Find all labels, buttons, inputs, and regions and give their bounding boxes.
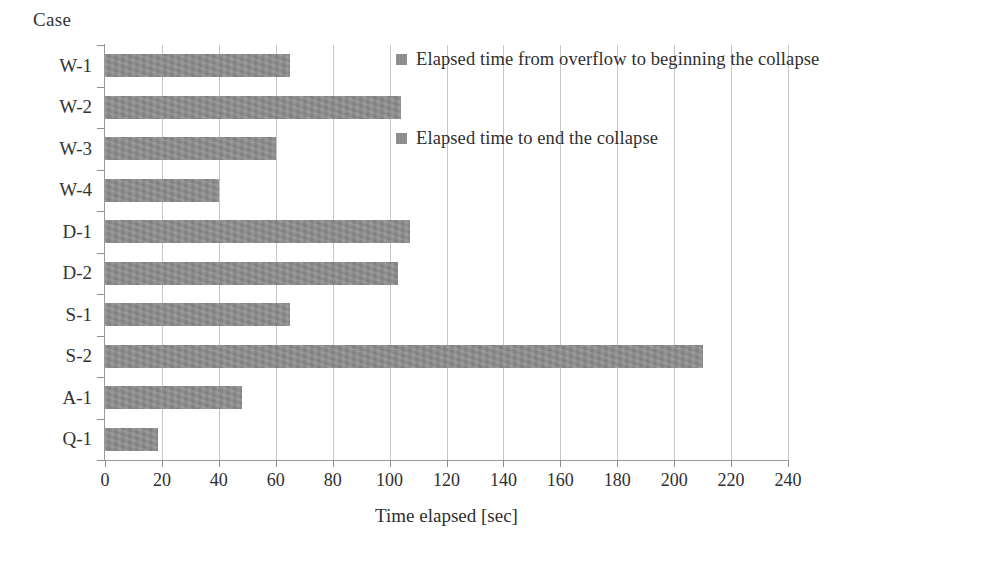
- y-tick: [97, 294, 105, 295]
- y-tick-label: A-1: [62, 387, 92, 409]
- gridline: [503, 45, 504, 460]
- x-tick-label: 80: [324, 470, 342, 491]
- x-tick: [219, 460, 220, 467]
- x-tick-label: 0: [101, 470, 110, 491]
- x-tick: [731, 460, 732, 467]
- bar: [105, 345, 703, 368]
- x-tick: [333, 460, 334, 467]
- y-tick: [97, 45, 105, 46]
- y-axis-title: Case: [33, 9, 71, 31]
- gridline: [731, 45, 732, 460]
- x-tick: [788, 460, 789, 467]
- x-tick: [617, 460, 618, 467]
- y-tick: [97, 170, 105, 171]
- y-tick-label: S-2: [66, 345, 92, 367]
- x-tick: [503, 460, 504, 467]
- bar: [105, 428, 158, 451]
- bar: [105, 137, 276, 160]
- bar: [105, 220, 410, 243]
- x-tick: [447, 460, 448, 467]
- y-tick-label: W-1: [59, 55, 92, 77]
- bar: [105, 386, 242, 409]
- y-tick-label: W-3: [59, 138, 92, 160]
- bar: [105, 96, 401, 119]
- bar: [105, 262, 398, 285]
- gridline: [560, 45, 561, 460]
- legend-label: Elapsed time to end the collapse: [416, 128, 658, 149]
- x-tick-label: 60: [267, 470, 285, 491]
- x-axis-title: Time elapsed [sec]: [105, 505, 788, 527]
- x-tick-label: 120: [433, 470, 460, 491]
- y-tick-label: W-4: [59, 179, 92, 201]
- legend-item-beginning-collapse: Elapsed time from overflow to beginning …: [396, 49, 819, 70]
- y-tick-label: D-1: [62, 221, 92, 243]
- y-tick: [97, 377, 105, 378]
- legend-label: Elapsed time from overflow to beginning …: [416, 49, 819, 70]
- x-tick-label: 100: [376, 470, 403, 491]
- bar: [105, 54, 290, 77]
- gridline: [617, 45, 618, 460]
- legend-swatch-icon: [396, 133, 407, 144]
- y-tick: [97, 336, 105, 337]
- y-tick: [97, 87, 105, 88]
- y-tick-label: S-1: [66, 304, 92, 326]
- x-tick-label: 20: [153, 470, 171, 491]
- x-tick: [390, 460, 391, 467]
- gridline: [674, 45, 675, 460]
- bar: [105, 179, 219, 202]
- gridline: [447, 45, 448, 460]
- x-tick: [105, 460, 106, 467]
- y-tick-label: Q-1: [62, 428, 92, 450]
- x-tick-label: 220: [718, 470, 745, 491]
- bar: [105, 303, 290, 326]
- y-tick: [97, 211, 105, 212]
- y-tick-label: D-2: [62, 262, 92, 284]
- x-tick-label: 160: [547, 470, 574, 491]
- y-tick: [97, 460, 105, 461]
- y-tick: [97, 419, 105, 420]
- bar-chart: Case 020406080100120140160180200220240 W…: [0, 0, 984, 561]
- x-tick-label: 200: [661, 470, 688, 491]
- x-tick-label: 40: [210, 470, 228, 491]
- x-tick-label: 140: [490, 470, 517, 491]
- x-tick: [276, 460, 277, 467]
- x-tick: [674, 460, 675, 467]
- y-tick-label: W-2: [59, 96, 92, 118]
- x-tick-label: 180: [604, 470, 631, 491]
- gridline: [788, 45, 789, 460]
- y-tick: [97, 253, 105, 254]
- legend-swatch-icon: [396, 54, 407, 65]
- legend-item-end-collapse: Elapsed time to end the collapse: [396, 128, 658, 149]
- y-tick: [97, 128, 105, 129]
- x-tick: [560, 460, 561, 467]
- x-tick: [162, 460, 163, 467]
- x-tick-label: 240: [775, 470, 802, 491]
